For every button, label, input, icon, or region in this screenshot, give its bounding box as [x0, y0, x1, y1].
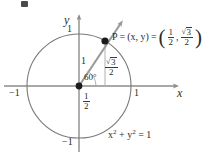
- equation-exponent-x: 2: [113, 128, 117, 136]
- point-name: P: [112, 32, 118, 42]
- coord-y-fraction: √3 2: [181, 27, 194, 48]
- sine-value-label: √3 2: [105, 57, 118, 78]
- figure-canvas: [0, 0, 205, 157]
- coord-y-numerator: √3: [181, 27, 194, 37]
- x-axis-label: x: [177, 87, 182, 99]
- sine-fraction: √3 2: [105, 57, 118, 78]
- x-tick-label-minus-1: −1: [9, 88, 20, 98]
- equation-exponent-y: 2: [132, 128, 136, 136]
- circle-equation-label: x2 + y2 = 1: [108, 130, 151, 140]
- scan-artifact: [21, 1, 28, 7]
- y-tick-label-1: 1: [67, 24, 72, 34]
- point-generic-coords: (x, y): [127, 32, 149, 42]
- coord-x-numerator: 1: [168, 28, 175, 37]
- radius-length-label: 1: [81, 56, 86, 66]
- sine-numerator: √3: [105, 57, 118, 67]
- cosine-value-label: 1 2: [83, 92, 90, 112]
- point-equals-1: =: [120, 32, 126, 42]
- cosine-numerator: 1: [83, 92, 90, 101]
- cosine-denominator: 2: [83, 101, 90, 111]
- coord-y-denominator: 2: [181, 37, 194, 47]
- angle-label: 60°: [84, 73, 97, 82]
- x-tick-label-1: 1: [134, 88, 139, 98]
- sine-radicand: 3: [110, 57, 117, 67]
- origin-dot: [76, 83, 83, 90]
- open-paren: (: [159, 30, 166, 45]
- y-tick-label-minus-1: −1: [62, 137, 73, 147]
- point-p-expression: P = (x, y) = ( 1 2 , √3 2 ): [112, 27, 202, 48]
- equation-rhs: = 1: [138, 129, 151, 140]
- close-paren: ): [195, 30, 202, 45]
- point-equals-2: =: [151, 32, 157, 42]
- equation-plus: +: [119, 129, 125, 140]
- point-ordered-pair: 1 2 , √3 2: [168, 27, 194, 48]
- coord-x-fraction: 1 2: [168, 28, 175, 48]
- coord-x-denominator: 2: [168, 37, 175, 47]
- sine-denominator: 2: [105, 67, 118, 77]
- radical-icon: √: [182, 28, 186, 36]
- coord-comma: ,: [176, 32, 179, 42]
- cosine-fraction: 1 2: [83, 92, 90, 112]
- point-p-dot: [101, 37, 108, 44]
- unit-circle-figure: y x 1 −1 −1 1 1 60° √3 2 1 2 P = (x, y) …: [0, 0, 205, 157]
- coord-y-radicand: 3: [186, 27, 193, 37]
- radical-icon: √: [106, 58, 110, 66]
